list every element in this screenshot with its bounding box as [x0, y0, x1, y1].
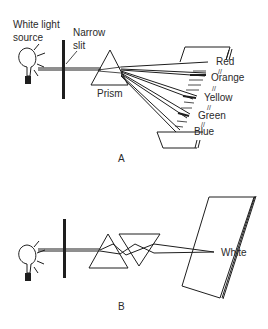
dispersed-rays: [121, 62, 208, 132]
spectrum-label-orange: Orange: [211, 72, 245, 83]
recombined-beam: [154, 244, 214, 252]
light-bulb-icon: [19, 44, 45, 84]
spectrum-label-blue: Blue: [194, 126, 214, 137]
source-label-line2: source: [13, 32, 43, 43]
prism-label: Prism: [97, 88, 123, 99]
panel-b-caption: B: [118, 301, 125, 312]
prism-dispersion-diagram: White light source Narrow slit Prism: [0, 0, 268, 329]
panel-b: White B: [19, 196, 256, 312]
slit-pointer: [66, 51, 77, 64]
source-label: White light: [13, 19, 60, 30]
slit-label-line2: slit: [73, 40, 85, 51]
spectrum-label-red: Red: [216, 56, 234, 67]
light-bulb-icon: [19, 241, 45, 281]
panel-a-caption: A: [118, 153, 125, 164]
separator: //: [212, 85, 216, 92]
slit-label: Narrow: [73, 27, 106, 38]
spectrum-label-yellow: Yellow: [204, 92, 233, 103]
result-label-white: White: [221, 247, 247, 258]
panel-a: White light source Narrow slit Prism: [13, 19, 245, 164]
spectrum-label-green: Green: [198, 110, 226, 121]
